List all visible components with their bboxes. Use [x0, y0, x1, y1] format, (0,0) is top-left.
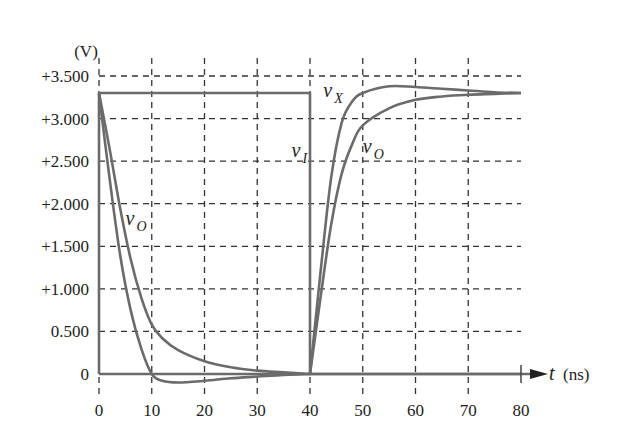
- x-axis-label: t (ns): [549, 362, 589, 384]
- y-axis-unit: (V): [74, 42, 98, 61]
- x-tick-label: 60: [407, 401, 424, 420]
- x-axis-unit: (ns): [563, 365, 589, 384]
- svg-text:I: I: [302, 151, 309, 166]
- x-axis-variable: t: [549, 362, 555, 384]
- x-tick-label: 30: [249, 401, 266, 420]
- svg-text:X: X: [333, 91, 343, 106]
- y-tick-label: 0.500: [51, 322, 89, 341]
- x-tick-label: 20: [196, 401, 213, 420]
- y-tick-label: +3.000: [41, 110, 89, 129]
- curves: [99, 86, 521, 383]
- x-tick-label: 50: [354, 401, 371, 420]
- svg-text:v: v: [323, 79, 332, 101]
- svg-text:v: v: [125, 207, 134, 229]
- y-tick-label: +1.500: [41, 237, 89, 256]
- x-tick-label: 0: [95, 401, 104, 420]
- y-axis-ticks: 00.500+1.000+1.500+2.000+2.500+3.000+3.5…: [41, 67, 89, 384]
- x-tick-label: 70: [460, 401, 477, 420]
- y-tick-label: +3.500: [41, 67, 89, 86]
- label-v-x: vX: [323, 79, 343, 106]
- x-axis-ticks: 01020304050607080: [95, 401, 530, 420]
- timing-chart: 00.500+1.000+1.500+2.000+2.500+3.000+3.5…: [0, 0, 623, 445]
- x-tick-label: 80: [513, 401, 530, 420]
- svg-text:v: v: [363, 135, 372, 157]
- svg-text:O: O: [374, 147, 384, 162]
- y-tick-label: +2.000: [41, 195, 89, 214]
- curve-labels: vOvIvXvO: [125, 79, 384, 234]
- x-tick-label: 40: [302, 401, 319, 420]
- curve-v-i: [99, 93, 521, 374]
- label-v-o-rising: vO: [363, 135, 384, 162]
- label-v-i: vI: [292, 139, 309, 166]
- x-axis: [99, 365, 548, 383]
- x-axis-arrow-icon: [530, 369, 548, 379]
- svg-text:O: O: [136, 219, 146, 234]
- svg-text:v: v: [292, 139, 301, 161]
- y-tick-label: +1.000: [41, 280, 89, 299]
- y-tick-label: 0: [81, 365, 90, 384]
- label-v-o-falling: vO: [125, 207, 146, 234]
- x-tick-label: 10: [143, 401, 160, 420]
- y-tick-label: +2.500: [41, 152, 89, 171]
